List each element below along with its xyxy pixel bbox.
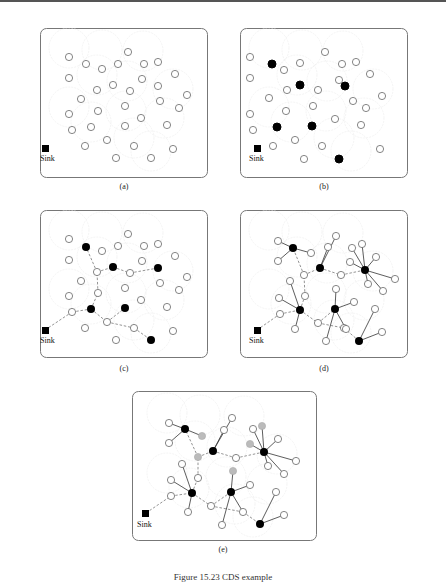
panel-e-label: (e) xyxy=(213,545,233,554)
panel-b-label: (b) xyxy=(314,182,334,191)
panel-e-diagram: Sink xyxy=(132,391,317,541)
sink-label: Sink xyxy=(40,154,55,163)
sink-icon xyxy=(42,145,49,152)
figure-caption: Figure 15.23 CDS example xyxy=(0,572,446,582)
sink-label: Sink xyxy=(40,336,55,345)
panel-d-label: (d) xyxy=(314,364,334,373)
panel-a: Sink xyxy=(40,28,208,178)
panel-a-diagram: Sink xyxy=(40,28,208,178)
sink-icon xyxy=(254,145,261,152)
sink-icon xyxy=(254,327,261,334)
sink-label: Sink xyxy=(249,154,264,163)
sink-icon xyxy=(42,327,49,334)
sink-label: Sink xyxy=(137,520,152,529)
panel-c-label: (c) xyxy=(114,364,134,373)
panel-c: Sink xyxy=(40,210,208,360)
panel-b-diagram: Sink xyxy=(240,28,408,178)
panel-d-diagram: Sink xyxy=(240,210,408,360)
top-border xyxy=(0,0,446,2)
panel-e: Sink xyxy=(132,391,317,541)
sink-icon xyxy=(142,510,149,517)
panel-d: Sink xyxy=(240,210,408,360)
panel-b: Sink xyxy=(240,28,408,178)
panel-c-diagram: Sink xyxy=(40,210,208,360)
panel-a-label: (a) xyxy=(114,182,134,191)
sink-label: Sink xyxy=(249,336,264,345)
